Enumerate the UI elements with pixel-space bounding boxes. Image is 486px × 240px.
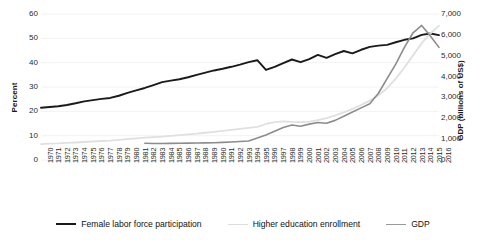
x-axis-tick-label: 2014	[426, 154, 435, 163]
y-axis-right-tick-label: 6,000	[441, 31, 475, 39]
legend-swatch-icon	[228, 224, 248, 225]
x-axis-tick-label: 2011	[400, 154, 409, 163]
legend-item[interactable]: Female labor force participation	[56, 219, 201, 229]
x-axis-tick-label: 1989	[210, 154, 219, 163]
x-axis-tick-label: 1980	[132, 154, 141, 163]
y-axis-right-tick-label: 5,000	[441, 52, 475, 60]
x-axis-tick-label: 2012	[409, 154, 418, 163]
y-axis-left-tick-label: 0	[14, 156, 38, 164]
series-line-higher-education-enrollment	[41, 26, 439, 144]
x-axis-tick-label: 2000	[305, 154, 314, 163]
legend-item[interactable]: GDP	[386, 219, 430, 229]
x-axis-tick-label: 2009	[383, 154, 392, 163]
chart-legend: Female labor force participationHigher e…	[0, 214, 486, 234]
x-axis-tick-label: 1979	[123, 154, 132, 163]
y-axis-left-tick-label: 50	[14, 34, 38, 42]
x-axis-tick-label: 1974	[80, 154, 89, 163]
x-axis-tick-label: 1997	[279, 154, 288, 163]
x-axis-tick-label: 1983	[158, 154, 167, 163]
chart-container: Percent GDP (billions of US$) 6050403020…	[0, 0, 486, 240]
legend-label: Female labor force participation	[81, 219, 201, 229]
legend-label: Higher education enrollment	[253, 219, 361, 229]
x-axis-tick-label: 2002	[322, 154, 331, 163]
x-axis-tick-label: 2008	[374, 154, 383, 163]
y-axis-left-tick-label: 20	[14, 107, 38, 115]
y-axis-right-tick-label: 3,000	[441, 93, 475, 101]
x-axis-tick-label: 1971	[54, 154, 63, 163]
series-line-female-labor-force-participation	[41, 33, 439, 107]
legend-item[interactable]: Higher education enrollment	[228, 219, 361, 229]
x-axis-tick-label: 1994	[253, 154, 262, 163]
x-axis-ticks: 1970197119721973197419751976197719781979…	[41, 163, 439, 207]
y-axis-right-tick-label: 4,000	[441, 73, 475, 81]
x-axis-tick-label: 2006	[357, 154, 366, 163]
x-axis-tick-label: 1992	[236, 154, 245, 163]
x-axis-tick-label: 2015	[435, 154, 444, 163]
x-axis-tick-label: 1991	[227, 154, 236, 163]
x-axis-tick-label: 1986	[184, 154, 193, 163]
y-axis-left-tick-label: 10	[14, 132, 38, 140]
x-axis-tick-label: 1982	[149, 154, 158, 163]
x-axis-tick-label: 2003	[331, 154, 340, 163]
x-axis-tick-label: 1985	[175, 154, 184, 163]
legend-label: GDP	[411, 219, 430, 229]
x-axis-tick-label: 1977	[106, 154, 115, 163]
y-axis-right-tick-label: 1,000	[441, 135, 475, 143]
y-axis-left-tick-label: 60	[14, 10, 38, 18]
y-axis-right-tick-label: 2,000	[441, 114, 475, 122]
x-axis-tick-label: 2016	[444, 154, 453, 163]
y-axis-left-ticks: 6050403020100	[12, 0, 38, 180]
x-axis-tick-label: 1988	[201, 154, 210, 163]
y-axis-left-tick-label: 40	[14, 59, 38, 67]
x-axis-tick-label: 2005	[348, 154, 357, 163]
y-axis-left-tick-label: 30	[14, 83, 38, 91]
y-axis-right-tick-label: 7,000	[441, 10, 475, 18]
legend-swatch-icon	[56, 223, 76, 225]
legend-swatch-icon	[386, 224, 406, 225]
